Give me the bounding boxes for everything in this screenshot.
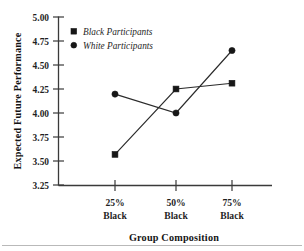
data-point-white-50: [173, 110, 179, 116]
y-tick-label-4: 4.00: [33, 109, 50, 119]
x-tick-label-75-pct: 75%: [222, 197, 241, 208]
x-tick-label-50-black: Black: [164, 210, 188, 221]
y-tick-label-2: 4.50: [33, 61, 50, 71]
y-tick-label-3: 4.25: [33, 85, 50, 95]
x-tick-labels: 25% Black 50% Black 75% Black: [103, 197, 244, 221]
data-point-black-25: [112, 152, 118, 158]
y-tick-label-5: 3.75: [33, 133, 50, 143]
series-black-participants-line: [115, 83, 232, 154]
legend-item-black-participants: Black Participants: [71, 27, 153, 37]
y-tick-label-1: 4.75: [33, 37, 50, 47]
series-white-participants-line: [115, 51, 232, 114]
legend-label-black-participants: Black Participants: [83, 27, 153, 37]
line-chart-svg: 5.00 4.75 4.50 4.25 4.00 3.75 3.50 3.25 …: [0, 0, 304, 251]
y-tick-labels: 5.00 4.75 4.50 4.25 4.00 3.75 3.50 3.25: [33, 13, 50, 191]
legend-label-white-participants: White Participants: [83, 41, 153, 51]
data-point-black-50: [173, 86, 179, 92]
square-marker-icon: [71, 29, 77, 35]
y-tick-label-7: 3.25: [33, 181, 50, 191]
legend-item-white-participants: White Participants: [71, 41, 153, 51]
data-point-white-25: [112, 91, 118, 97]
series-black-participants: [112, 80, 235, 157]
data-point-black-75: [229, 80, 235, 86]
x-axis-title: Group Composition: [129, 232, 219, 243]
series-white-participants: [112, 47, 235, 116]
chart-legend: Black Participants White Participants: [71, 27, 153, 51]
x-tick-label-75-black: Black: [220, 210, 244, 221]
y-tick-label-6: 3.50: [33, 157, 50, 167]
x-tick-label-25-black: Black: [103, 210, 127, 221]
y-axis-title: Expected Future Performance: [12, 32, 23, 169]
x-tick-label-25-pct: 25%: [105, 197, 124, 208]
chart-figure: 5.00 4.75 4.50 4.25 4.00 3.75 3.50 3.25 …: [0, 0, 304, 251]
data-point-white-75: [229, 47, 235, 53]
circle-marker-icon: [71, 42, 77, 48]
y-tick-label-0: 5.00: [33, 13, 50, 23]
x-tick-label-50-pct: 50%: [166, 197, 185, 208]
